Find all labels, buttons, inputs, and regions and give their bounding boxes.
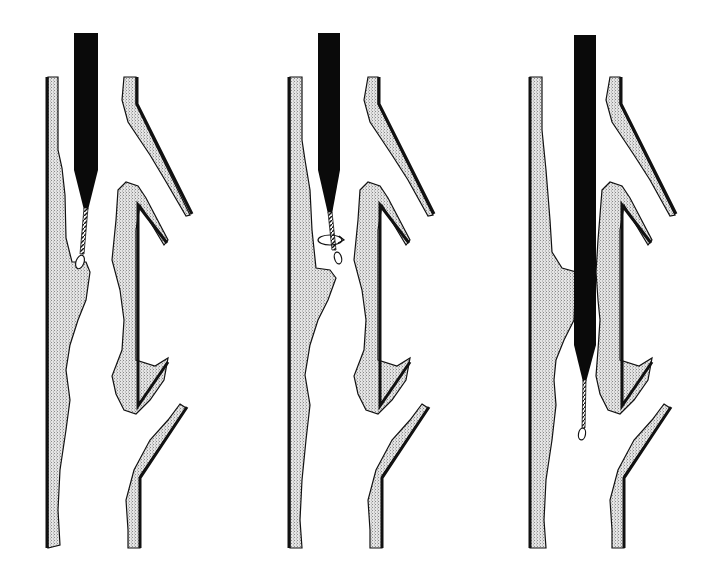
catheter <box>574 35 596 382</box>
panel-1 <box>47 33 192 548</box>
catheter <box>318 33 340 214</box>
lower-branch-plaque <box>126 404 186 548</box>
panel-2 <box>289 33 434 548</box>
guidewire <box>582 380 586 428</box>
rotation-arrow-icon <box>318 235 342 245</box>
figure <box>0 0 711 578</box>
guidewire <box>80 208 88 254</box>
lower-branch-plaque <box>368 404 428 548</box>
middle-plaque <box>112 182 168 414</box>
middle-plaque <box>596 182 652 414</box>
guidewire-tip <box>333 251 343 264</box>
lower-branch-plaque <box>610 404 670 548</box>
middle-plaque <box>354 182 410 414</box>
panel-3 <box>530 35 676 548</box>
guidewire-tip <box>578 427 587 440</box>
left-plaque <box>530 77 576 548</box>
catheter <box>74 33 98 210</box>
